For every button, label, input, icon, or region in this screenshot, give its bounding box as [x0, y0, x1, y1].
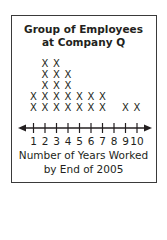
x-mark: X	[122, 102, 129, 113]
x-mark: X	[53, 102, 60, 113]
x-axis-label-line-1: Number of Years Worked	[0, 148, 167, 162]
x-mark: X	[53, 80, 60, 91]
number-line: 12345678910	[18, 123, 152, 147]
tick-label: 3	[53, 135, 60, 147]
x-mark: X	[99, 102, 106, 113]
x-mark: X	[53, 69, 60, 80]
tick-label: 2	[42, 135, 49, 147]
left-arrow-icon	[18, 125, 26, 132]
tick-label: 10	[130, 135, 143, 147]
axis-ticks: 12345678910	[30, 123, 144, 147]
tick-label: 6	[88, 135, 95, 147]
x-mark: X	[76, 91, 83, 102]
x-marks: XXXXXXXXXXXXXXXXXXXXXXXX	[30, 58, 141, 113]
x-mark: X	[88, 102, 95, 113]
tick-label: 7	[99, 135, 106, 147]
x-mark: X	[42, 80, 49, 91]
x-mark: X	[42, 91, 49, 102]
x-mark: X	[65, 80, 72, 91]
x-mark: X	[65, 102, 72, 113]
x-mark: X	[99, 91, 106, 102]
x-axis-label-line-2: by End of 2005	[0, 162, 167, 176]
right-arrow-icon	[144, 125, 152, 132]
tick-label: 1	[30, 135, 37, 147]
x-mark: X	[53, 58, 60, 69]
tick-label: 9	[122, 135, 129, 147]
x-mark: X	[30, 91, 37, 102]
tick-label: 4	[65, 135, 72, 147]
x-mark: X	[53, 91, 60, 102]
x-mark: X	[65, 69, 72, 80]
x-mark: X	[76, 102, 83, 113]
x-mark: X	[42, 69, 49, 80]
tick-label: 5	[76, 135, 83, 147]
x-mark: X	[65, 91, 72, 102]
x-mark: X	[42, 58, 49, 69]
x-mark: X	[42, 102, 49, 113]
tick-label: 8	[111, 135, 118, 147]
x-mark: X	[88, 91, 95, 102]
x-mark: X	[134, 102, 141, 113]
x-mark: X	[30, 102, 37, 113]
